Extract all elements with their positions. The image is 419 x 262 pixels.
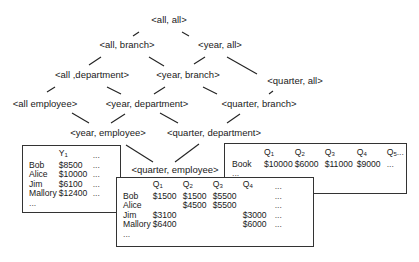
edge (133, 32, 139, 36)
year-employee-table: Y1 ... Bob $8500 ... Alice $10000 ... Ji… (29, 149, 102, 209)
table-header-row: Y1 ... (29, 149, 102, 161)
more-columns: ... (397, 147, 404, 157)
table-header-row: Q1 Q2 Q3 Q4 ... (123, 180, 284, 192)
node-year-branch: <year, branch> (156, 69, 219, 80)
node-all-all: <all, all> (151, 14, 186, 25)
table-row: ... (123, 230, 284, 240)
table-header-row: Q1 Q2 Q3 Q4 Q5... (232, 148, 406, 160)
subscript: 3 (219, 183, 222, 189)
cell (213, 211, 243, 221)
edge (182, 32, 189, 36)
cell: $12400 (59, 189, 93, 199)
cell: $6000 (243, 220, 275, 230)
table-row: ... (29, 199, 102, 209)
col-q1: Q (264, 147, 271, 157)
cell (213, 220, 243, 230)
cell: $6400 (153, 220, 183, 230)
year-employee-table-box: Y1 ... Bob $8500 ... Alice $10000 ... Ji… (22, 145, 121, 213)
subscript: 1 (159, 183, 162, 189)
cell: $9000 (357, 160, 387, 170)
subscript: 1 (64, 152, 67, 158)
subscript: 2 (189, 183, 192, 189)
quarter-employee-table-box: Q1 Q2 Q3 Q4 ... Bob $1500 $1500 $5500 ..… (116, 177, 314, 247)
cell: $5500 (213, 201, 243, 211)
cell: $1500 (153, 192, 183, 202)
more-rows: ... (29, 199, 59, 209)
node-year-all: <year, all> (198, 39, 242, 50)
subscript: 2 (301, 151, 304, 157)
node-quarter-branch: <quarter, branch> (222, 98, 297, 109)
subscript: 4 (249, 183, 252, 189)
table-row: Mallory $12400 ... (29, 189, 102, 199)
node-year-department: <year, department> (106, 98, 188, 109)
cell: ... (93, 189, 102, 199)
more-columns: ... (93, 149, 102, 161)
more-rows: ... (123, 230, 153, 240)
cell (183, 220, 213, 230)
quarter-department-table: Q1 Q2 Q3 Q4 Q5... Book $10000 $6000 $110… (232, 148, 406, 179)
subscript: 3 (331, 151, 334, 157)
node-all-employee: <all employee> (13, 98, 77, 109)
cell (183, 211, 213, 221)
more-columns: ... (275, 180, 284, 192)
node-quarter-department: <quarter, department> (167, 127, 261, 138)
node-all-branch: <all, branch> (100, 39, 155, 50)
cell: $4500 (183, 201, 213, 211)
node-quarter-all: <quarter, all> (267, 75, 322, 86)
cell: $11000 (325, 160, 357, 170)
node-quarter-employee: <quarter, employee> (131, 164, 218, 175)
node-all-department: <all ,department> (55, 69, 129, 80)
cell: $10000 (264, 160, 295, 170)
table-row: Book $10000 $6000 $11000 $9000 ... (232, 160, 406, 170)
cell (243, 192, 275, 202)
table-row: Mallory $6400 $6000 ... (123, 220, 284, 230)
cell: ... (275, 220, 284, 230)
cell: ... (387, 160, 406, 170)
quarter-employee-table: Q1 Q2 Q3 Q4 ... Bob $1500 $1500 $5500 ..… (123, 180, 284, 240)
node-year-employee: <year, employee> (70, 127, 146, 138)
cell: $6000 (295, 160, 325, 170)
subscript: 1 (271, 151, 274, 157)
subscript: 4 (363, 151, 366, 157)
